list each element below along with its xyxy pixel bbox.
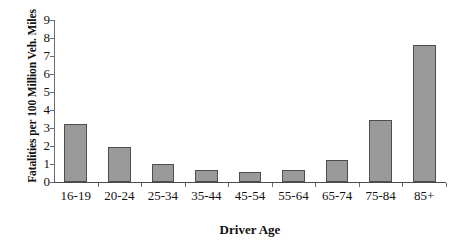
- bar: [152, 164, 175, 182]
- y-tick-label: 0: [30, 175, 50, 188]
- x-tick-label: 85+: [402, 188, 446, 203]
- plot-area: [54, 20, 446, 182]
- x-tick-label: 25-34: [141, 188, 185, 203]
- x-axis-line: [54, 182, 446, 183]
- x-tick-mark: [98, 183, 99, 187]
- bar: [195, 170, 218, 182]
- bar: [108, 147, 131, 182]
- bars-layer: [54, 20, 446, 182]
- x-tick-mark: [185, 183, 186, 187]
- x-tick-mark: [315, 183, 316, 187]
- x-tick-mark: [141, 183, 142, 187]
- x-tick-label: 45-54: [228, 188, 272, 203]
- x-tick-mark: [359, 183, 360, 187]
- y-tick-mark: [50, 182, 54, 183]
- x-tick-label: 35-44: [185, 188, 229, 203]
- bar: [326, 160, 349, 182]
- y-tick-label: 5: [30, 85, 50, 98]
- y-tick-label: 6: [30, 67, 50, 80]
- y-tick-label: 3: [30, 121, 50, 134]
- y-axis-tick-labels: 0123456789: [30, 14, 50, 190]
- bar: [64, 124, 87, 182]
- y-tick-label: 2: [30, 139, 50, 152]
- y-tick-label: 1: [30, 157, 50, 170]
- y-tick-label: 8: [30, 31, 50, 44]
- x-tick-label: 65-74: [315, 188, 359, 203]
- y-tick-label: 9: [30, 13, 50, 26]
- y-tick-label: 4: [30, 103, 50, 116]
- x-tick-mark: [272, 183, 273, 187]
- x-tick-label: 55-64: [272, 188, 316, 203]
- bar: [369, 120, 392, 182]
- bar: [282, 170, 305, 182]
- x-axis-title: Driver Age: [54, 222, 446, 238]
- bar-chart: Fatalities per 100 Million Veh. Miles 01…: [0, 0, 457, 249]
- x-tick-mark: [228, 183, 229, 187]
- x-tick-mark: [446, 183, 447, 187]
- x-axis-tick-labels: 16-1920-2425-3435-4445-5455-6465-7475-84…: [54, 188, 446, 208]
- x-tick-mark: [402, 183, 403, 187]
- bar: [239, 172, 262, 182]
- x-tick-label: 20-24: [98, 188, 142, 203]
- bar: [413, 45, 436, 182]
- y-tick-label: 7: [30, 49, 50, 62]
- x-tick-label: 16-19: [54, 188, 98, 203]
- x-tick-label: 75-84: [359, 188, 403, 203]
